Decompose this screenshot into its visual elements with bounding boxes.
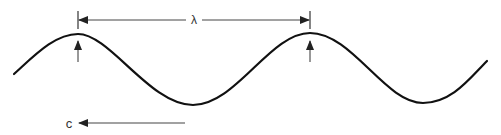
velocity-indicator: c	[66, 116, 185, 131]
sine-wave	[14, 33, 487, 105]
wavelength-label: λ	[191, 13, 197, 27]
wave-diagram: λ c	[0, 0, 501, 135]
velocity-label: c	[66, 116, 73, 131]
wavelength-dimension: λ	[78, 11, 310, 29]
